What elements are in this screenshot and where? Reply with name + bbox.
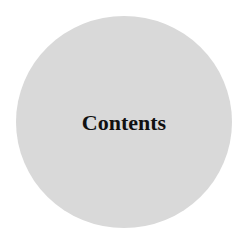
contents-button[interactable]: Contents xyxy=(16,16,232,228)
contents-label: Contents xyxy=(82,110,166,136)
